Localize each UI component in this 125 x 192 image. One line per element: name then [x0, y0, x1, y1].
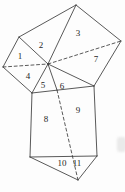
region-label-11: 11 — [73, 158, 82, 168]
region-label-6: 6 — [60, 81, 65, 91]
region-label-8: 8 — [44, 114, 49, 124]
edge-T-C — [48, 5, 76, 64]
solid-edges-group — [3, 5, 121, 180]
edge-FL-L1 — [3, 37, 19, 67]
dashed-edge-FL-C — [3, 64, 48, 67]
region-label-2: 2 — [39, 40, 44, 50]
edge-T-R — [76, 5, 121, 41]
edge-L1-C — [19, 37, 48, 64]
edge-A-BL — [30, 93, 32, 157]
edge-BL-BR — [30, 156, 97, 157]
edge-B-BR — [94, 86, 97, 156]
edge-L1-T — [19, 5, 76, 37]
geometry-figure: 1234567891011 — [0, 0, 125, 192]
region-label-10: 10 — [58, 158, 68, 168]
region-label-3: 3 — [76, 28, 81, 38]
region-label-1: 1 — [18, 51, 23, 61]
region-label-7: 7 — [94, 54, 99, 64]
edge-BL-V — [30, 157, 78, 180]
scan-smudge-1 — [117, 137, 125, 152]
figure-page: 1234567891011 — [0, 0, 125, 192]
dashed-edge-C-R — [48, 41, 121, 64]
region-label-5: 5 — [41, 80, 46, 90]
region-label-4: 4 — [26, 71, 31, 81]
region-label-9: 9 — [76, 105, 81, 115]
